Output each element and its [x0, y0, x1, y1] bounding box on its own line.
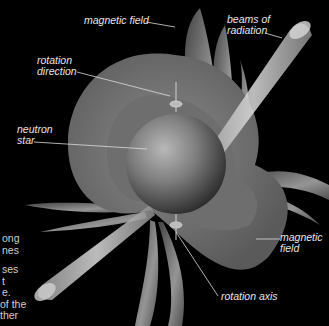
neutron-star	[126, 114, 226, 214]
text-line: ong	[0, 233, 26, 245]
text-line: ther	[0, 310, 26, 322]
text-line: ses	[0, 264, 26, 276]
radiation-beam-lower	[38, 205, 155, 300]
field-petals-lower	[25, 203, 184, 326]
pulsar-diagram: magnetic field beams of radiation rotati…	[0, 0, 329, 326]
label-beams-of-radiation: beams of radiation	[227, 14, 270, 36]
label-rotation-direction: rotation direction	[37, 55, 77, 77]
label-line: star	[17, 135, 53, 146]
text-line: e.	[0, 287, 26, 299]
label-neutron-star: neutron star	[17, 124, 53, 146]
leader-magnetic-field-top	[146, 22, 175, 27]
label-magnetic-field-right: magnetic field	[280, 232, 323, 254]
pulsar-illustration	[0, 0, 329, 326]
text-line: nes	[0, 245, 26, 257]
label-line: field	[280, 243, 323, 254]
cropped-body-text: ong nes ses t e. of the ther	[0, 233, 26, 322]
label-rotation-axis: rotation axis	[221, 291, 278, 302]
label-line: direction	[37, 66, 77, 77]
label-line: radiation	[227, 25, 270, 36]
label-magnetic-field-top: magnetic field	[84, 15, 149, 26]
